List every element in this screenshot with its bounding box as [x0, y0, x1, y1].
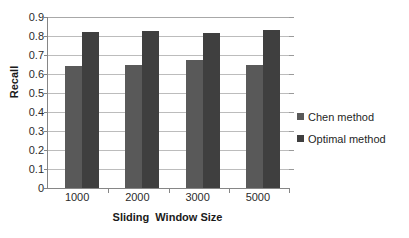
x-axis-title: Sliding Window Size: [47, 211, 288, 223]
legend-label: Chen method: [308, 111, 374, 123]
legend-label: Optimal method: [308, 133, 386, 145]
legend-swatch-icon: [297, 135, 304, 142]
legend-item-chen-method[interactable]: Chen method: [297, 108, 407, 125]
plot-area: [47, 17, 289, 189]
y-axis-tickmark-right: [289, 169, 294, 170]
y-axis-tickmark-right: [289, 112, 294, 113]
y-axis-tick-label: 0.2: [14, 145, 44, 156]
y-axis-tickmark-right: [289, 36, 294, 37]
bar-3000-chen: [186, 60, 203, 188]
recall-bar-chart: Recall 0.90.80.70.60.50.40.30.20.10 1000…: [0, 0, 409, 238]
y-axis-tickmark-right: [289, 74, 294, 75]
chart-legend: Chen methodOptimal method: [297, 108, 407, 152]
x-axis-category-labels: 1000200030005000: [47, 191, 288, 209]
x-axis-tickmark: [289, 188, 290, 193]
bar-5000-chen: [246, 65, 263, 188]
bar-1000-optimal: [82, 32, 99, 188]
y-axis-tickmark-right: [289, 93, 294, 94]
bar-3000-optimal: [203, 33, 220, 188]
y-axis-tickmark-right: [289, 150, 294, 151]
y-axis-tick-label: 0.9: [14, 12, 44, 23]
x-axis-label-1000: 1000: [47, 191, 107, 203]
bar-5000-optimal: [263, 30, 280, 188]
y-axis-tick-label: 0: [14, 183, 44, 194]
y-axis-tick-label: 0.3: [14, 126, 44, 137]
y-axis-tick-label: 0.6: [14, 69, 44, 80]
bar-1000-chen: [65, 66, 82, 188]
x-axis-label-5000: 5000: [228, 191, 288, 203]
y-axis-tick-label: 0.5: [14, 88, 44, 99]
legend-item-optimal-method[interactable]: Optimal method: [297, 130, 407, 147]
y-axis-tick-label: 0.7: [14, 50, 44, 61]
y-axis-tickmark: [44, 188, 48, 189]
y-axis-tickmark-right: [289, 55, 294, 56]
y-axis-tick-label: 0.8: [14, 31, 44, 42]
bar-2000-optimal: [142, 31, 159, 188]
bar-2000-chen: [125, 65, 142, 189]
legend-swatch-icon: [297, 113, 304, 120]
x-axis-label-2000: 2000: [107, 191, 167, 203]
bars-layer: [48, 17, 289, 188]
x-axis-label-3000: 3000: [168, 191, 228, 203]
y-axis-tick-labels: 0.90.80.70.60.50.40.30.20.10: [14, 10, 44, 192]
y-axis-tick-label: 0.1: [14, 164, 44, 175]
y-axis-tick-label: 0.4: [14, 107, 44, 118]
y-axis-tickmark-right: [289, 131, 294, 132]
y-axis-tickmark-right: [289, 17, 294, 18]
